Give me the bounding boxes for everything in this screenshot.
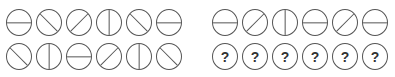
circle-horizontal-line	[66, 43, 92, 70]
question-mark: ?	[303, 44, 327, 69]
question-mark: ?	[243, 44, 267, 69]
question-mark: ?	[213, 44, 237, 69]
backslash-line-icon	[9, 46, 30, 67]
slash-line-icon	[245, 12, 266, 33]
backslash-line-icon	[129, 12, 150, 33]
circle-horizontal-line	[6, 9, 32, 36]
circle-vertical-line	[36, 43, 62, 70]
circle-vertical-line	[272, 9, 298, 36]
slash-line-icon	[99, 46, 120, 67]
circle-horizontal-line	[362, 9, 388, 36]
question-mark: ?	[333, 44, 357, 69]
slash-line-icon	[335, 12, 356, 33]
horizontal-line-icon	[156, 22, 182, 23]
horizontal-line-icon	[212, 22, 238, 23]
backslash-line-icon	[159, 46, 180, 67]
unknown-circle[interactable]: ?	[362, 43, 388, 70]
unknown-circle[interactable]: ?	[302, 43, 328, 70]
vertical-line-icon	[138, 43, 139, 70]
unknown-circle[interactable]: ?	[212, 43, 238, 70]
unknown-circle[interactable]: ?	[272, 43, 298, 70]
circle-slash-line	[66, 9, 92, 36]
circle-vertical-line	[126, 43, 152, 70]
circle-horizontal-line	[212, 9, 238, 36]
circle-slash-line	[242, 9, 268, 36]
circle-backslash-line	[156, 43, 182, 70]
horizontal-line-icon	[362, 22, 388, 23]
vertical-line-icon	[284, 9, 285, 36]
horizontal-line-icon	[302, 22, 328, 23]
slash-line-icon	[69, 12, 90, 33]
circle-vertical-line	[96, 9, 122, 36]
question-mark: ?	[363, 44, 387, 69]
circle-horizontal-line	[302, 9, 328, 36]
vertical-line-icon	[48, 43, 49, 70]
circle-backslash-line	[126, 9, 152, 36]
circle-backslash-line	[6, 43, 32, 70]
backslash-line-icon	[39, 12, 60, 33]
question-mark: ?	[273, 44, 297, 69]
circle-backslash-line	[36, 9, 62, 36]
unknown-circle[interactable]: ?	[332, 43, 358, 70]
circle-horizontal-line	[156, 9, 182, 36]
unknown-circle[interactable]: ?	[242, 43, 268, 70]
horizontal-line-icon	[6, 22, 32, 23]
horizontal-line-icon	[66, 56, 92, 57]
circle-slash-line	[96, 43, 122, 70]
vertical-line-icon	[108, 9, 109, 36]
circle-slash-line	[332, 9, 358, 36]
